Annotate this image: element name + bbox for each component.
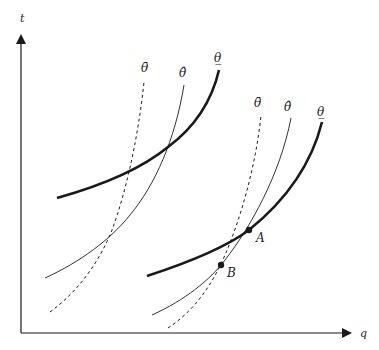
point-a-label: A	[255, 231, 265, 245]
right-dashed-label: θ̄	[254, 96, 262, 110]
y-axis-label: t	[20, 12, 25, 25]
right-thin-label: θ̂	[284, 100, 292, 114]
point-b-label: B	[226, 266, 236, 280]
right-thick-curve	[147, 122, 322, 276]
point-a	[246, 227, 252, 233]
diagram-canvas: t q θ̄ θ̂ θ̲ θ̄ θ̂ θ̲ A B	[0, 0, 379, 350]
right-thin-curve	[152, 118, 291, 315]
left-thin-label: θ̂	[179, 66, 187, 80]
right-thick-label: θ̲	[317, 105, 325, 119]
left-thick-label: θ̲	[214, 51, 222, 65]
left-dashed-label: θ̄	[141, 61, 149, 75]
left-thick-curve	[57, 70, 219, 198]
x-axis-label: q	[360, 327, 367, 340]
point-b	[218, 262, 224, 268]
right-dashed-curve	[168, 116, 261, 328]
left-thin-curve	[45, 85, 184, 278]
